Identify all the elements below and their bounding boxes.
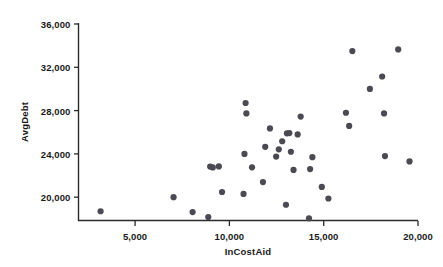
data-point [273,154,279,160]
data-point [381,110,387,116]
data-point [325,195,331,201]
y-tick-label: 20,000 [41,192,71,203]
data-point [262,144,268,150]
data-point [216,163,222,169]
data-point [382,153,388,159]
scatter-chart: 20,00024,00028,00032,00036,000 5,00010,0… [0,0,443,267]
data-point [260,179,266,185]
data-point [243,110,249,116]
data-point [346,123,352,129]
data-point [219,189,225,195]
data-point [240,191,246,197]
data-point [241,151,247,157]
data-point [190,209,196,215]
x-tick-label: 10,000 [215,231,245,242]
data-point [283,202,289,208]
data-point [286,130,292,136]
plot-area [0,0,443,267]
data-point [288,149,294,155]
y-axis-title: AvgDebt [19,102,30,142]
data-point [243,100,249,106]
data-point [298,113,304,119]
data-point [205,214,211,220]
y-tick-label: 24,000 [41,148,71,159]
data-point [406,158,412,164]
y-tick-label: 36,000 [41,19,71,30]
data-point [295,131,301,137]
x-tick-label: 5,000 [123,231,147,242]
data-point [379,73,385,79]
data-point [170,194,176,200]
data-point [395,46,401,52]
data-point [343,110,349,116]
data-point [279,138,285,144]
data-point [267,125,273,131]
x-tick-label: 15,000 [309,231,339,242]
data-point [307,166,313,172]
data-point [306,215,312,221]
data-point [97,208,103,214]
data-point [309,154,315,160]
data-point [210,164,216,170]
axes [78,23,418,221]
y-tick-label: 32,000 [41,62,71,73]
y-tick-label: 28,000 [41,105,71,116]
data-point [367,86,373,92]
data-point [349,48,355,54]
data-point [319,184,325,190]
data-point [249,164,255,170]
x-axis-title: InCostAid [225,246,272,257]
data-point [290,167,296,173]
x-tick-label: 20,000 [403,231,433,242]
data-points [97,46,412,221]
data-point [276,146,282,152]
